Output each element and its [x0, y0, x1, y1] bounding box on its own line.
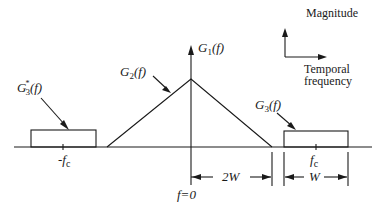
w-right-arrow-icon	[338, 174, 347, 180]
2w-label: 2W	[222, 169, 241, 184]
g2-label: G2(f)	[120, 64, 146, 81]
magnitude-axis-arrow-icon	[188, 45, 194, 55]
g3-label: G3(f)	[255, 97, 281, 114]
2w-right-arrow-icon	[262, 174, 271, 180]
g2-triangle-spectrum	[107, 79, 272, 147]
origin-label: f=0	[177, 187, 196, 202]
neg-carrier-label: -fc	[58, 152, 71, 169]
w-label: W	[309, 169, 321, 184]
g1-label: G1(f)	[198, 40, 224, 57]
pos-carrier-label: fc	[310, 152, 319, 169]
w-left-arrow-icon	[285, 174, 294, 180]
spectrum-diagram: Magnitude Temporal frequency G1(f) G2(f)…	[0, 0, 386, 210]
2w-left-arrow-icon	[192, 174, 201, 180]
legend-axes: Magnitude Temporal frequency	[282, 6, 358, 88]
legend-frequency-label: frequency	[304, 74, 352, 88]
legend-up-arrow-icon	[282, 28, 288, 37]
legend-magnitude-label: Magnitude	[306, 6, 358, 20]
g3-conjugate-label: G*3(f)	[17, 79, 42, 97]
legend-right-arrow-icon	[318, 54, 327, 60]
g2-pointer-arrow-icon	[162, 86, 171, 93]
g3-conjugate-pointer-line	[41, 98, 65, 125]
